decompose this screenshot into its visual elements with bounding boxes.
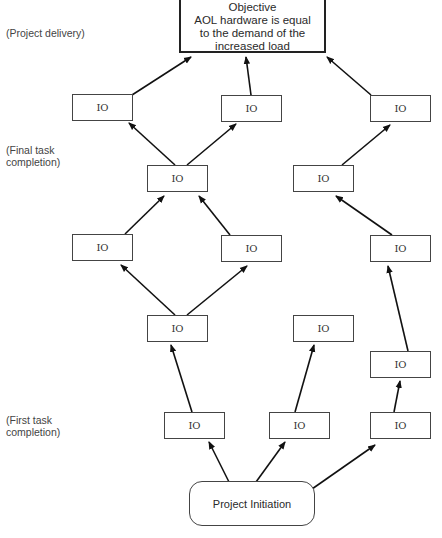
arrow-io5-to-io3 bbox=[342, 125, 390, 165]
io-node-10: IO bbox=[293, 315, 354, 342]
io-node-8: IO bbox=[370, 235, 431, 262]
arrow-io13-to-io10 bbox=[295, 345, 314, 412]
arrow-io11-to-io8 bbox=[388, 266, 408, 351]
arrow-initiation-to-io14 bbox=[312, 445, 375, 489]
io-node-2: IO bbox=[221, 95, 282, 122]
arrow-io6-to-io4 bbox=[125, 196, 164, 234]
io-node-6: IO bbox=[72, 234, 133, 261]
io-network-diagram: (Project delivery) (Final task completio… bbox=[0, 0, 442, 538]
arrow-initiation-to-io13 bbox=[256, 442, 285, 482]
arrow-io8-to-io5 bbox=[336, 196, 392, 235]
io-node-11: IO bbox=[370, 351, 431, 378]
stage-label-project-delivery: (Project delivery) bbox=[6, 27, 85, 39]
io-node-7: IO bbox=[221, 235, 282, 262]
arrow-io4-to-io2 bbox=[187, 124, 236, 165]
objective-line-3: to the demand of the bbox=[200, 27, 306, 40]
arrow-io9-to-io7 bbox=[187, 266, 247, 315]
project-initiation-node: Project Initiation bbox=[189, 481, 315, 526]
io-node-12: IO bbox=[164, 412, 225, 439]
arrow-io1-to-objective bbox=[132, 57, 191, 95]
stage-label-first-task: (First task completion) bbox=[6, 414, 60, 438]
arrow-io9-to-io6 bbox=[121, 265, 175, 315]
objective-node: Objective AOL hardware is equal to the d… bbox=[179, 0, 326, 53]
arrow-layer bbox=[0, 0, 442, 538]
arrow-io12-to-io9 bbox=[171, 345, 192, 412]
io-node-14: IO bbox=[370, 412, 431, 439]
stage-label-final-task: (Final task completion) bbox=[6, 144, 60, 168]
io-node-3: IO bbox=[370, 95, 431, 122]
io-node-13: IO bbox=[269, 412, 330, 439]
io-node-9: IO bbox=[147, 315, 208, 342]
arrow-io3-to-objective bbox=[327, 57, 371, 95]
io-node-1: IO bbox=[72, 94, 133, 121]
objective-line-2: AOL hardware is equal bbox=[194, 14, 311, 27]
arrow-io7-to-io4 bbox=[199, 196, 230, 235]
arrow-io2-to-objective bbox=[246, 57, 251, 95]
io-node-4: IO bbox=[147, 165, 208, 192]
arrow-initiation-to-io12 bbox=[209, 442, 229, 482]
arrow-io4-to-io1 bbox=[129, 123, 175, 165]
arrow-io14-to-io11 bbox=[394, 381, 400, 412]
objective-line-1: Objective bbox=[229, 1, 277, 14]
objective-line-4: increased load bbox=[215, 40, 290, 53]
io-node-5: IO bbox=[293, 165, 354, 192]
